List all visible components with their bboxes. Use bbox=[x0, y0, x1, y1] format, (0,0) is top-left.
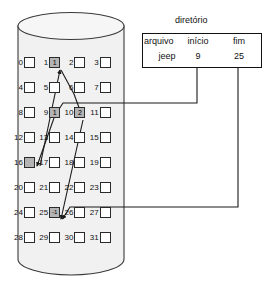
block-index-label-4: 4 bbox=[11, 83, 23, 93]
block-index-label-20: 20 bbox=[11, 183, 23, 193]
directory-cell-fim: 25 bbox=[218, 51, 260, 61]
block-index-label-14: 14 bbox=[61, 133, 73, 143]
disk-block-value-1: 1 bbox=[49, 57, 60, 68]
disk-block-8 bbox=[24, 107, 35, 118]
disk-block-11 bbox=[100, 107, 111, 118]
block-index-label-22: 22 bbox=[61, 183, 73, 193]
disk-block-31 bbox=[100, 232, 111, 243]
block-index-label-31: 31 bbox=[87, 233, 99, 243]
disk-block-22 bbox=[74, 182, 85, 193]
disk-block-19 bbox=[100, 157, 111, 168]
block-index-label-11: 11 bbox=[87, 108, 99, 118]
disk-block-2 bbox=[74, 57, 85, 68]
disk-block-20 bbox=[24, 182, 35, 193]
directory-title: diretório bbox=[175, 15, 208, 25]
disk-block-14 bbox=[74, 132, 85, 143]
disk-block-6 bbox=[74, 82, 85, 93]
directory-cell-inicio: 9 bbox=[175, 51, 221, 61]
disk-block-24 bbox=[24, 207, 35, 218]
disk-block-3 bbox=[100, 57, 111, 68]
disk-block-value-25: -1 bbox=[49, 207, 60, 218]
disk-block-30 bbox=[74, 232, 85, 243]
block-index-label-15: 15 bbox=[87, 133, 99, 143]
disk-block-12 bbox=[24, 132, 35, 143]
disk-block-23 bbox=[100, 182, 111, 193]
disk-linked-allocation-figure: diretório arquivo início fim jeep 9 25 0… bbox=[0, 0, 270, 286]
block-index-label-19: 19 bbox=[87, 158, 99, 168]
disk-block-value-9: 1 bbox=[49, 107, 60, 118]
disk-block-15 bbox=[100, 132, 111, 143]
disk-block-0 bbox=[24, 57, 35, 68]
disk-block-4 bbox=[24, 82, 35, 93]
directory-header-inicio: início bbox=[175, 36, 221, 46]
disk-block-21 bbox=[49, 182, 60, 193]
block-index-label-1: 1 bbox=[36, 58, 48, 68]
cylinder-top-ellipse bbox=[18, 13, 124, 40]
block-index-label-18: 18 bbox=[61, 158, 73, 168]
block-index-label-29: 29 bbox=[36, 233, 48, 243]
block-index-label-5: 5 bbox=[36, 83, 48, 93]
disk-block-26 bbox=[74, 207, 85, 218]
block-index-label-28: 28 bbox=[11, 233, 23, 243]
block-index-label-10: 10 bbox=[61, 108, 73, 118]
directory-header-fim: fim bbox=[218, 36, 260, 46]
block-index-label-3: 3 bbox=[87, 58, 99, 68]
disk-block-18 bbox=[74, 157, 85, 168]
disk-block-5 bbox=[49, 82, 60, 93]
block-index-label-6: 6 bbox=[61, 83, 73, 93]
block-index-label-27: 27 bbox=[87, 208, 99, 218]
block-index-label-2: 2 bbox=[61, 58, 73, 68]
disk-block-13 bbox=[49, 132, 60, 143]
block-index-label-13: 13 bbox=[36, 133, 48, 143]
block-index-label-7: 7 bbox=[87, 83, 99, 93]
block-index-label-12: 12 bbox=[11, 133, 23, 143]
block-index-label-9: 9 bbox=[36, 108, 48, 118]
disk-block-28 bbox=[24, 232, 35, 243]
block-index-label-17: 17 bbox=[36, 158, 48, 168]
block-index-label-0: 0 bbox=[11, 58, 23, 68]
block-index-label-24: 24 bbox=[11, 208, 23, 218]
block-index-label-25: 25 bbox=[36, 208, 48, 218]
block-index-label-8: 8 bbox=[11, 108, 23, 118]
disk-block-16 bbox=[24, 157, 35, 168]
disk-block-27 bbox=[100, 207, 111, 218]
block-index-label-26: 26 bbox=[61, 208, 73, 218]
disk-block-29 bbox=[49, 232, 60, 243]
disk-block-7 bbox=[100, 82, 111, 93]
block-index-label-16: 16 bbox=[11, 158, 23, 168]
disk-block-value-10: 2 bbox=[74, 107, 85, 118]
block-index-label-21: 21 bbox=[36, 183, 48, 193]
disk-block-17 bbox=[49, 157, 60, 168]
block-index-label-30: 30 bbox=[61, 233, 73, 243]
block-index-label-23: 23 bbox=[87, 183, 99, 193]
